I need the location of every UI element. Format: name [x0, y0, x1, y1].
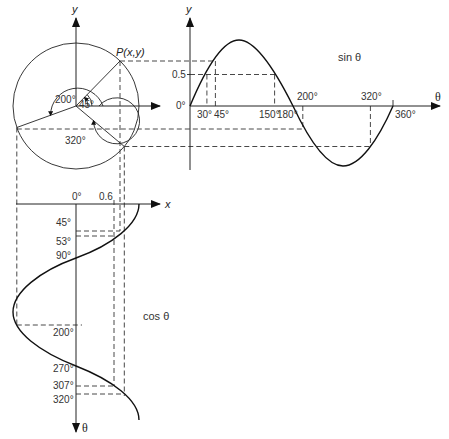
cosine-tick-320: 320° [53, 394, 74, 405]
sine-y-axis-label: y [185, 3, 193, 15]
sine-tick-320: 320° [361, 91, 382, 102]
radius-200 [17, 106, 76, 128]
arc-320 [94, 98, 140, 144]
sine-label: sin θ [338, 51, 361, 63]
sine-tick-180: 180° [277, 109, 298, 120]
sine-tick-origin: 0° [176, 100, 186, 111]
trig-projection-diagram: y 45° 200° 320° P(x,y) [0, 0, 449, 439]
projection-lines [17, 61, 371, 396]
angle-label-200: 200° [55, 94, 76, 105]
cosine-tick-270: 270° [53, 363, 74, 374]
point-p-label: P(x,y) [116, 46, 145, 58]
circle-y-axis-label: y [71, 3, 79, 15]
cosine-tick-53: 53° [56, 236, 71, 247]
sine-tick-30: 30° [197, 109, 212, 120]
unit-circle-group: y 45° 200° 320° P(x,y) [13, 3, 160, 169]
cosine-label: cos θ [143, 310, 169, 322]
cosine-tick-200: 200° [53, 327, 74, 338]
sine-theta-axis-label: θ [435, 90, 441, 104]
sine-tick-45: 45° [214, 109, 229, 120]
sine-tick-360: 360° [395, 109, 416, 120]
cosine-tick-45: 45° [56, 217, 71, 228]
angle-label-320: 320° [65, 135, 86, 146]
cosine-tick-307: 307° [53, 380, 74, 391]
cosine-graph: x θ cos θ 0° 0.6 45° 53° 90° 200° 270° 3… [13, 191, 171, 435]
cosine-tick-06: 0.6 [99, 191, 113, 202]
cosine-tick-origin: 0° [72, 191, 82, 202]
sine-curve [190, 40, 393, 166]
sine-tick-200: 200° [297, 91, 318, 102]
sine-tick-half: 0.5 [172, 69, 186, 80]
sine-graph: y θ sin θ 0° 0.5 30° 45° 150° 180° 200° … [172, 3, 441, 170]
cosine-x-axis-label: x [164, 198, 171, 210]
cosine-theta-axis-label: θ [82, 421, 88, 435]
cosine-tick-90: 90° [56, 250, 71, 261]
angle-label-45: 45° [79, 99, 94, 110]
